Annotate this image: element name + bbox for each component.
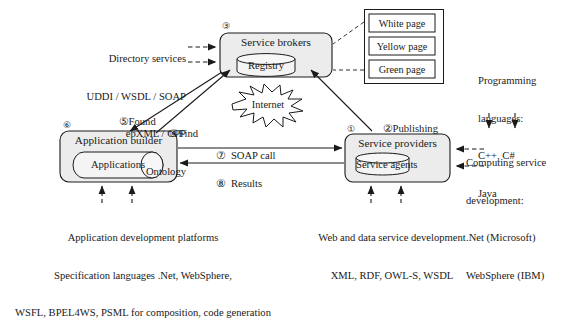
application-development-line-3: WSFL, BPEL4WS, PSML for composition, cod… — [0, 307, 286, 320]
page-cell-yellow: Yellow page — [369, 41, 435, 53]
application-development-line-2: Specification languages .Net, WebSphere, — [0, 270, 286, 283]
computing-service-line-2: development: — [466, 195, 571, 208]
web-data-service-arrows — [371, 186, 401, 203]
flow-found-marker: ⑤ — [119, 116, 129, 127]
computing-service-line-1: Computing service — [466, 157, 571, 170]
internet-label: Internet — [238, 99, 298, 111]
annotation-web-data-service-development: Web and data service development XML, RD… — [294, 207, 490, 307]
service-brokers-marker: ③ — [222, 21, 230, 32]
flow-results-label: ⑧ Results — [205, 165, 262, 203]
page-cell-white: White page — [369, 18, 435, 30]
directory-services-line-1: Directory services — [8, 53, 186, 66]
application-builder-marker: ⑥ — [63, 120, 71, 131]
flow-publishing-text: Publishing — [393, 123, 438, 134]
flow-find-text: Find — [179, 128, 198, 139]
applications-label: Applications — [84, 159, 152, 172]
service-brokers-title: Service brokers — [220, 36, 332, 49]
directory-services-arrows — [188, 47, 216, 62]
service-providers-title: Service providers — [345, 137, 450, 150]
flow-publishing-marker: ② — [383, 123, 393, 134]
flow-publishing-arrow — [311, 70, 372, 131]
application-builder-title: Application builder — [60, 134, 177, 147]
flow-results-text: Results — [231, 178, 262, 189]
web-data-service-line-2: XML, RDF, OWL-S, WSDL — [294, 270, 490, 283]
application-development-line-1: Application development platforms — [0, 232, 286, 245]
programming-languages-line-1: Programming — [478, 75, 570, 88]
flow-found-text: Found — [129, 116, 156, 127]
annotation-application-development: Application development platforms Specif… — [0, 207, 286, 322]
web-data-service-line-1: Web and data service development — [294, 232, 490, 245]
page-cell-green: Green page — [369, 64, 435, 76]
flow-results-marker: ⑧ — [216, 178, 226, 189]
registry-label: Registry — [237, 60, 295, 73]
programming-languages-line-2: languages: — [478, 113, 570, 126]
directory-services-line-2: UDDI / WSDL / SOAP — [8, 91, 186, 104]
flow-soap-call-marker: ⑦ — [216, 150, 226, 161]
service-agents-label: Service agents — [356, 159, 409, 172]
service-providers-marker: ① — [347, 124, 355, 135]
flow-soap-call-text: SOAP call — [231, 150, 276, 161]
